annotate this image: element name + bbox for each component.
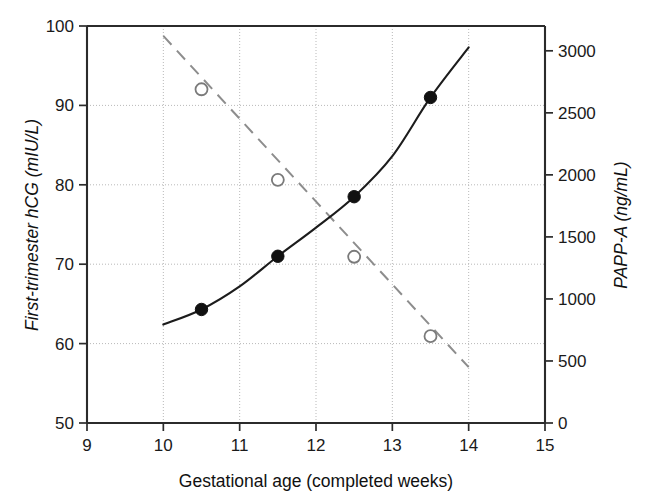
papp-a-data-point (425, 330, 437, 342)
tick-label-left: 90 (55, 96, 74, 115)
papp-a-data-point (196, 83, 208, 95)
y-axis-right-title: PAPP-A (ng/mL) (611, 161, 631, 288)
tick-label-bottom: 11 (231, 436, 249, 455)
papp-a-data-point (272, 174, 284, 186)
x-axis-title: Gestational age (completed weeks) (179, 471, 453, 491)
dual-axis-scatter-chart: 5060708090100 050010001500200025003000 9… (0, 0, 652, 496)
hcg-data-point (272, 250, 284, 262)
hcg-data-point (195, 303, 207, 315)
tick-label-left: 70 (55, 255, 74, 274)
tick-label-right: 3000 (558, 42, 596, 61)
tick-label-bottom: 12 (307, 436, 326, 455)
tick-label-right: 1500 (558, 228, 596, 247)
right-axis-tick-labels: 050010001500200025003000 (558, 42, 596, 433)
bottom-axis-ticks (87, 423, 545, 431)
tick-label-left: 100 (46, 17, 74, 36)
left-axis-tick-labels: 5060708090100 (46, 17, 74, 433)
tick-label-bottom: 14 (459, 436, 478, 455)
bottom-axis-tick-labels: 9101112131415 (82, 436, 554, 455)
tick-label-bottom: 9 (82, 436, 91, 455)
tick-label-right: 0 (558, 414, 567, 433)
papp-a-data-point (348, 251, 360, 263)
tick-label-left: 50 (55, 414, 74, 433)
chart-figure: 5060708090100 050010001500200025003000 9… (0, 0, 652, 496)
y-axis-left-title: First-trimester hCG (mIU/L) (22, 119, 42, 331)
tick-label-bottom: 13 (383, 436, 402, 455)
tick-label-bottom: 15 (536, 436, 555, 455)
right-axis-ticks (545, 51, 553, 423)
tick-label-right: 2500 (558, 104, 596, 123)
tick-label-left: 60 (55, 335, 74, 354)
left-axis-ticks (79, 26, 87, 423)
hcg-data-point (424, 91, 436, 103)
tick-label-right: 1000 (558, 290, 596, 309)
tick-label-bottom: 10 (154, 436, 173, 455)
tick-label-left: 80 (55, 176, 74, 195)
tick-label-right: 2000 (558, 166, 596, 185)
hcg-data-point (348, 191, 360, 203)
tick-label-right: 500 (558, 352, 586, 371)
